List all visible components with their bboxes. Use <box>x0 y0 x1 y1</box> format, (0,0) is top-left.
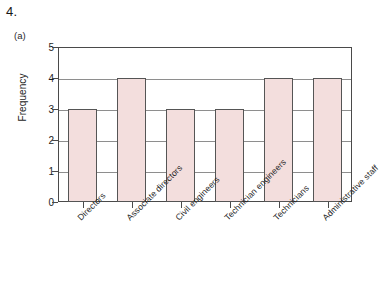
bar <box>215 109 243 202</box>
bar <box>117 78 145 202</box>
bar <box>313 78 341 202</box>
bar <box>166 109 194 202</box>
y-axis-title: Frequency <box>17 63 28 133</box>
bar <box>68 109 96 202</box>
y-tick-mark <box>52 202 58 203</box>
bars-layer <box>58 47 352 202</box>
